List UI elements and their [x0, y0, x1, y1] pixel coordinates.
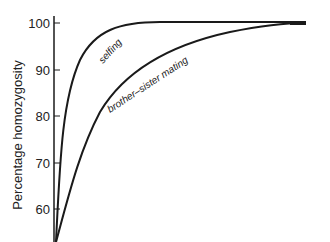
tick-label-100: 100 [28, 16, 50, 31]
tick-label-70: 70 [36, 156, 50, 171]
selfing-label: selfing [96, 36, 124, 65]
homozygosity-chart: 100 90 80 70 60 Percentage homozygosity … [0, 0, 330, 242]
tick-label-60: 60 [36, 202, 50, 217]
selfing-curve [56, 22, 305, 242]
y-axis-label: Percentage homozygosity [10, 60, 25, 210]
tick-label-90: 90 [36, 63, 50, 78]
tick-label-80: 80 [36, 109, 50, 124]
